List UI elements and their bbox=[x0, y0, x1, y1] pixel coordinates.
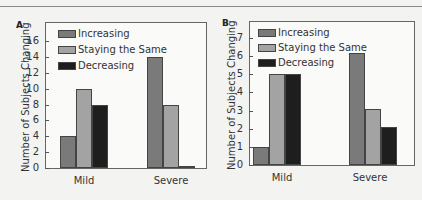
bar-mild-decreasing bbox=[285, 74, 301, 165]
category-label-mild: Mild bbox=[257, 172, 307, 183]
legend-item-decreasing: Decreasing bbox=[258, 57, 334, 68]
y-tick-label: 3 bbox=[229, 105, 243, 116]
y-tick-mark bbox=[249, 92, 253, 93]
bar-mild-staying bbox=[269, 74, 285, 165]
y-tick-mark bbox=[249, 74, 253, 75]
y-tick-label: 2 bbox=[229, 123, 243, 134]
y-tick-mark bbox=[249, 56, 253, 57]
y-tick-label: 4 bbox=[229, 86, 243, 97]
y-tick-label: 0 bbox=[229, 159, 243, 170]
y-tick-mark bbox=[249, 129, 253, 130]
y-tick-label: 7 bbox=[229, 32, 243, 43]
bar-mild-increasing bbox=[253, 147, 269, 165]
y-tick-label: 5 bbox=[229, 68, 243, 79]
swatch-increasing-icon bbox=[258, 29, 276, 37]
swatch-decreasing-icon bbox=[258, 59, 276, 67]
chart-panel-b: B Number of Subjects Changing 01234567 I… bbox=[0, 0, 422, 200]
bar-severe-increasing bbox=[349, 53, 365, 165]
y-tick-mark bbox=[249, 111, 253, 112]
legend-item-staying: Staying the Same bbox=[258, 42, 367, 53]
swatch-staying-icon bbox=[258, 44, 276, 52]
y-tick-mark bbox=[249, 38, 253, 39]
y-tick-mark bbox=[249, 165, 253, 166]
y-tick-label: 6 bbox=[229, 50, 243, 61]
bar-severe-staying bbox=[365, 109, 381, 165]
bar-severe-decreasing bbox=[381, 127, 397, 165]
y-tick-label: 1 bbox=[229, 141, 243, 152]
category-label-severe: Severe bbox=[345, 172, 395, 183]
legend-item-increasing: Increasing bbox=[258, 27, 330, 38]
